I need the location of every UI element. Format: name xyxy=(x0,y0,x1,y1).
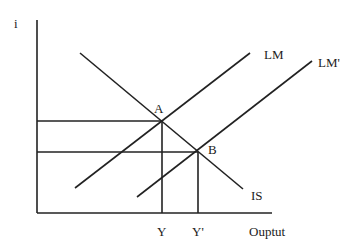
lm-prime-label: LM' xyxy=(318,56,340,69)
point-a-label: A xyxy=(154,102,163,115)
is-lm-diagram: i LM LM' IS A B Y Y' Ouptut xyxy=(0,0,356,250)
lm-label: LM xyxy=(264,48,284,61)
x-tick-y-prime: Y' xyxy=(192,225,204,238)
is-label: IS xyxy=(251,189,263,202)
lm-prime-curve xyxy=(137,61,312,197)
x-axis-label: Ouptut xyxy=(249,225,285,238)
point-b-label: B xyxy=(208,143,217,156)
diagram-lines xyxy=(0,0,356,250)
x-tick-y: Y xyxy=(157,225,166,238)
y-axis-label: i xyxy=(14,17,18,30)
